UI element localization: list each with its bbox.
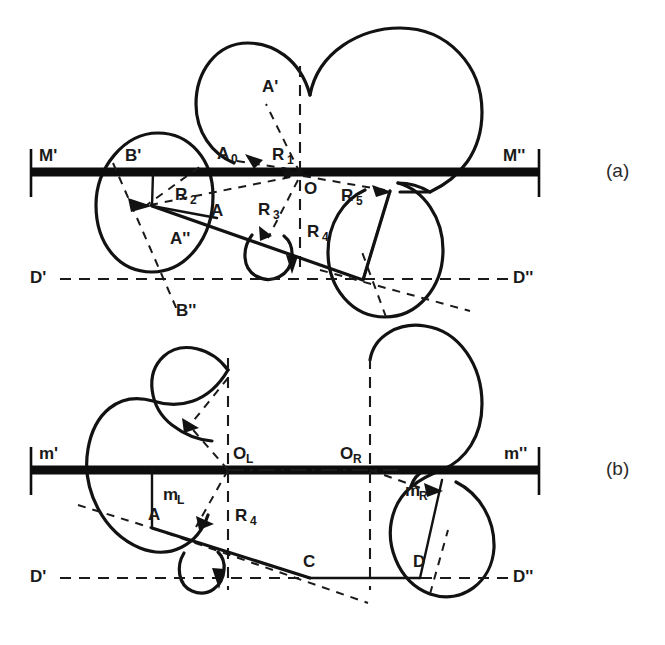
linkage-arm-AC-b — [152, 528, 310, 578]
svg-text:R: R — [235, 506, 247, 525]
label-D-b: D — [413, 552, 425, 571]
label-R2: R 2 — [175, 185, 197, 207]
svg-text:5: 5 — [356, 194, 363, 208]
cam-lobe-upper-right-b — [370, 325, 482, 470]
construction-line-OL-arrow — [188, 424, 228, 470]
label-R5: R 5 — [341, 186, 363, 208]
construction-line-circle-radius-a — [362, 252, 386, 317]
label-m-double-prime: m'' — [504, 444, 527, 463]
svg-text:R: R — [341, 186, 353, 205]
label-R1: R 1 — [272, 145, 294, 167]
label-A: A — [211, 201, 223, 220]
construction-line-OL-upper — [186, 378, 228, 430]
label-M-double-prime: M'' — [503, 146, 525, 165]
svg-text:L: L — [177, 493, 184, 507]
svg-text:3: 3 — [273, 208, 280, 222]
construction-line-B-a — [113, 163, 178, 312]
svg-text:0: 0 — [231, 152, 238, 166]
svg-text:4: 4 — [322, 230, 329, 244]
label-D-double-prime-b: D'' — [513, 567, 533, 586]
svg-text:L: L — [246, 452, 253, 466]
label-OL: O L — [233, 444, 253, 466]
label-D-prime-b: D' — [30, 567, 46, 586]
svg-text:m: m — [163, 485, 178, 504]
label-mL: m L — [163, 485, 184, 507]
svg-text:R: R — [419, 489, 428, 503]
label-R4-b: R 4 — [235, 506, 257, 528]
svg-text:R: R — [272, 145, 284, 164]
arrowhead-OL-b — [182, 418, 199, 433]
svg-text:m: m — [405, 481, 420, 500]
technical-diagram: M' M'' B' B'' A' A'' A O A 0 R 1 R 2 R 3 — [0, 0, 665, 645]
label-M-prime: M' — [39, 146, 57, 165]
cam-lobe-upper-right — [310, 28, 482, 192]
label-R3: R 3 — [258, 200, 280, 222]
label-B-double-prime: B'' — [176, 301, 196, 320]
arrowhead-A-b — [196, 516, 214, 530]
cam-lobe-upper-left — [196, 43, 310, 163]
svg-text:R: R — [307, 222, 319, 241]
label-OR: O R — [340, 444, 362, 466]
svg-text:2: 2 — [190, 193, 197, 207]
svg-text:1: 1 — [287, 153, 294, 167]
arrowhead-R2 — [128, 198, 152, 212]
arrowhead-R1 — [245, 154, 263, 169]
label-A-double-prime: A'' — [170, 229, 190, 248]
panel-tag-b: (b) — [606, 458, 629, 479]
svg-text:O: O — [340, 444, 353, 463]
svg-text:R: R — [258, 200, 270, 219]
label-C-b: C — [303, 552, 315, 571]
label-D-prime-a: D' — [30, 268, 46, 287]
label-m-prime: m' — [39, 444, 58, 463]
svg-text:4: 4 — [250, 514, 257, 528]
construction-line-D-radius — [430, 530, 448, 594]
center-point-O-a — [296, 168, 303, 175]
panel-a: M' M'' B' B'' A' A'' A O A 0 R 1 R 2 R 3 — [30, 28, 629, 320]
label-R4-a: R 4 — [307, 222, 329, 244]
label-D-double-prime-a: D'' — [513, 268, 533, 287]
construction-line-lower-right-a — [320, 270, 470, 311]
label-A-prime: A' — [262, 77, 278, 96]
svg-text:R: R — [353, 452, 362, 466]
label-A-b: A — [148, 505, 160, 524]
svg-text:A: A — [217, 144, 229, 163]
panel-b: m' m'' O L O R m L m R R 4 A C — [30, 325, 629, 603]
svg-text:O: O — [233, 444, 246, 463]
linkage-upper-a — [363, 191, 390, 280]
panel-tag-a: (a) — [606, 160, 629, 181]
label-O-center-a: O — [304, 179, 317, 198]
svg-text:R: R — [175, 185, 187, 204]
label-A0: A 0 — [217, 144, 238, 166]
figure-root: M' M'' B' B'' A' A'' A O A 0 R 1 R 2 R 3 — [0, 0, 665, 645]
construction-line-left-A — [78, 505, 152, 528]
label-B-prime: B' — [125, 146, 141, 165]
